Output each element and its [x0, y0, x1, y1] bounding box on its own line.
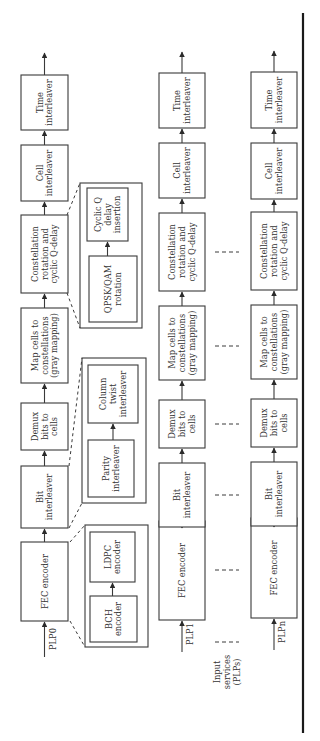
bit-interleaver-block: Bitinterleaver [21, 451, 68, 528]
svg-text:Constellation: Constellation [167, 223, 177, 279]
svg-text:cyclic Q-delay: cyclic Q-delay [49, 224, 59, 283]
svg-text:Bit: Bit [35, 490, 45, 503]
svg-text:PLP0: PLP0 [48, 628, 58, 650]
svg-text:BCH: BCH [104, 609, 114, 629]
svg-text:Cell: Cell [35, 164, 45, 181]
svg-text:Bit: Bit [264, 487, 274, 500]
svg-text:Cell: Cell [264, 162, 274, 179]
svg-text:bits to: bits to [177, 411, 187, 438]
svg-text:bits to: bits to [40, 413, 50, 440]
svg-text:(gray mapping): (gray mapping) [187, 311, 197, 376]
plp-label: PLPn [277, 620, 287, 643]
input-services-label: Inputservices(PLPs) [212, 655, 241, 689]
cell-interleaver-block: Cellinterleaver [159, 129, 205, 198]
svg-text:Map cells to: Map cells to [259, 316, 269, 367]
block-label: FEC encoder [40, 554, 50, 609]
block-label: Constellationrotation andcyclic Q-delay [167, 222, 196, 281]
bit-interleaver-detail-inset: ParityinterleaverColumntwistinterleaver [82, 358, 146, 503]
dashed-connector [67, 293, 80, 328]
chain-plp0: PLP0FEC encoderBitinterleaverDemuxbits t… [21, 53, 68, 657]
svg-text:encoder: encoder [113, 602, 123, 636]
svg-text:cells: cells [187, 414, 197, 433]
cell-interleaver-block: Cellinterleaver [251, 129, 297, 199]
svg-text:encoder: encoder [112, 540, 122, 574]
plp-label: PLP1 [185, 623, 195, 645]
svg-text:cells: cells [279, 413, 289, 432]
parity-interleaver-block: Parityinterleaver [88, 440, 134, 497]
bit-interleaver-block: Bitinterleaver [251, 448, 297, 526]
map-cells-to-constellations-gray-mapping-block: Map cells toconstellations(gray mapping) [251, 291, 297, 379]
demux-bits-to-cells-block: Demuxbits tocells [21, 384, 68, 450]
svg-text:Input: Input [212, 660, 222, 683]
svg-text:interleaver: interleaver [118, 371, 128, 417]
plp-chains: PLP0FEC encoderBitinterleaverDemuxbits t… [21, 51, 297, 657]
dashed-connector [69, 503, 82, 528]
svg-text:insertion: insertion [112, 195, 122, 233]
block-label: FEC encoder [269, 541, 279, 596]
svg-text:(PLPs): (PLPs) [232, 658, 242, 685]
block-label: Constellationrotation andcyclic Q-delay [30, 224, 59, 283]
svg-text:Time: Time [172, 90, 182, 111]
svg-text:Bit: Bit [172, 488, 182, 501]
svg-text:interleaver: interleaver [182, 147, 192, 193]
svg-text:constellations: constellations [177, 314, 187, 372]
dashed-connector [70, 621, 85, 647]
fec-encoder-block: FEC encoder [251, 518, 297, 618]
svg-text:Column: Column [98, 377, 108, 410]
svg-text:delay: delay [103, 203, 113, 226]
constellation-detail-inset: QPSK/QAMrotationCyclic Qdelayinsertion [80, 183, 142, 328]
dashed-connector [69, 358, 82, 466]
svg-text:Constellation: Constellation [259, 222, 269, 278]
svg-text:interleaver: interleaver [274, 77, 284, 123]
svg-text:interleaver: interleaver [274, 471, 284, 517]
svg-text:(gray mapping): (gray mapping) [279, 310, 289, 375]
chain-plp1: PLP1FEC encoderBitinterleaverDemuxbits t… [159, 52, 205, 652]
svg-text:twist: twist [108, 383, 118, 404]
svg-text:Map cells to: Map cells to [167, 317, 177, 368]
time-interleaver-block: Timeinterleaver [21, 53, 68, 130]
block-label: FEC encoder [177, 543, 187, 598]
svg-text:cyclic Q-delay: cyclic Q-delay [187, 222, 197, 281]
ldpc-encoder-block: LDPCencoder [90, 532, 135, 582]
bit-interleaver-block: Bitinterleaver [159, 449, 205, 527]
fec-detail-inset: BCHencoderLDPCencoder [85, 525, 148, 647]
ellipsis-dashes [215, 252, 239, 642]
svg-text:Map cells to: Map cells to [30, 320, 40, 371]
input-services-text: Inputservices(PLPs) [212, 655, 241, 689]
svg-text:FEC encoder: FEC encoder [40, 554, 50, 609]
svg-text:cyclic Q-delay: cyclic Q-delay [279, 221, 289, 280]
svg-text:Constellation: Constellation [30, 225, 40, 281]
constellation-rotation-and-cyclic-q-delay-block: Constellationrotation andcyclic Q-delay [251, 200, 297, 290]
svg-text:services: services [222, 655, 232, 689]
svg-text:Cell: Cell [172, 162, 182, 179]
svg-text:interleaver: interleaver [44, 150, 54, 196]
detail-insets: QPSK/QAMrotationCyclic QdelayinsertionPa… [80, 183, 148, 647]
svg-text:PLP1: PLP1 [185, 623, 195, 645]
svg-text:Demux: Demux [30, 411, 40, 441]
svg-text:QPSK/QAM: QPSK/QAM [103, 264, 113, 313]
time-interleaver-block: Timeinterleaver [251, 51, 297, 128]
fec-encoder-block: FEC encoder [21, 529, 68, 621]
column-twist-interleaver-block: Columntwistinterleaver [88, 365, 138, 423]
constellation-rotation-and-cyclic-q-delay-block: Constellationrotation andcyclic Q-delay [159, 199, 205, 291]
dvb-t2-bicm-diagram: PLP0FEC encoderBitinterleaverDemuxbits t… [0, 0, 320, 741]
svg-text:rotation and: rotation and [269, 224, 279, 276]
block-label: Map cells toconstellations(gray mapping) [167, 311, 196, 376]
map-cells-to-constellations-gray-mapping-block: Map cells toconstellations(gray mapping) [159, 292, 205, 380]
svg-text:interleaver: interleaver [182, 472, 192, 518]
constellation-rotation-and-cyclic-q-delay-block: Constellationrotation andcyclic Q-delay [21, 202, 68, 293]
svg-text:LDPC: LDPC [103, 545, 113, 569]
svg-text:Demux: Demux [259, 408, 269, 438]
svg-text:Cyclic Q: Cyclic Q [93, 197, 103, 232]
block-label: LDPCencoder [103, 540, 123, 574]
svg-text:interleaver: interleaver [182, 77, 192, 123]
demux-bits-to-cells-block: Demuxbits tocells [251, 380, 297, 447]
svg-text:interleaver: interleaver [274, 148, 284, 194]
svg-text:FEC encoder: FEC encoder [177, 543, 187, 598]
svg-text:interleaver: interleaver [111, 445, 121, 491]
fec-encoder-block: FEC encoder [159, 521, 205, 620]
map-cells-to-constellations-gray-mapping-block: Map cells toconstellations(gray mapping) [21, 294, 68, 383]
chain-plpn: PLPnFEC encoderBitinterleaverDemuxbits t… [251, 51, 297, 650]
svg-text:PLPn: PLPn [277, 620, 287, 643]
block-label: Map cells toconstellations(gray mapping) [30, 313, 59, 378]
